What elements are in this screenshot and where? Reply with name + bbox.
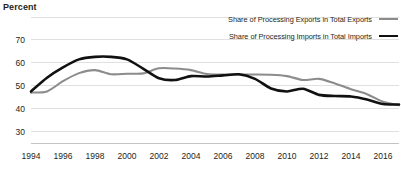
chart-legend: Share of Processing Exports in Total Exp…	[214, 13, 398, 47]
legend-swatch-processing-imports	[379, 35, 398, 37]
legend-label-processing-exports: Share of Processing Exports in Total Exp…	[228, 15, 372, 24]
y-tick-label-70: 70	[16, 35, 26, 45]
series-line-processing-imports	[31, 57, 399, 105]
x-tick-label-2002: 2002	[150, 151, 169, 161]
x-tick-label-1998: 1998	[86, 151, 105, 161]
y-tick-label-60: 60	[16, 58, 26, 68]
x-tick-label-2010: 2010	[278, 151, 297, 161]
legend-swatch-processing-exports	[379, 18, 398, 20]
y-tick-label-40: 40	[16, 104, 26, 114]
y-tick-label-30: 30	[16, 127, 26, 137]
y-tick-label-50: 50	[16, 81, 26, 91]
x-tick-label-2012: 2012	[310, 151, 329, 161]
x-tick-label-2014: 2014	[342, 151, 361, 161]
x-tick-label-2000: 2000	[118, 151, 137, 161]
legend-label-processing-imports: Share of Processing Imports in Total Imp…	[229, 32, 372, 41]
legend-item-processing-imports: Share of Processing Imports in Total Imp…	[214, 30, 398, 42]
x-tick-label-2006: 2006	[214, 151, 233, 161]
x-tick-label-2008: 2008	[246, 151, 265, 161]
x-tick-label-2016: 2016	[374, 151, 393, 161]
legend-item-processing-exports: Share of Processing Exports in Total Exp…	[214, 13, 398, 25]
x-tick-label-1994: 1994	[22, 151, 41, 161]
chart-figure: Percent 30405060701994199619982000200220…	[0, 0, 401, 186]
series-line-processing-exports	[31, 68, 399, 105]
x-tick-label-1996: 1996	[54, 151, 73, 161]
x-tick-label-2004: 2004	[182, 151, 201, 161]
